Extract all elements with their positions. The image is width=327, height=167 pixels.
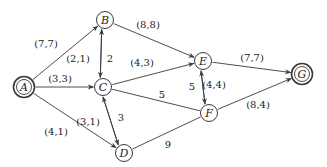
edge-label-e-f: (4,4) <box>202 79 226 90</box>
node-label-g: G <box>298 68 307 81</box>
node-label-f: F <box>204 107 213 120</box>
edge-e-g <box>212 62 290 72</box>
node-c: C <box>95 79 112 96</box>
nodes-layer: ABCDEFG <box>14 12 313 162</box>
edge-label-c-e: (4,3) <box>130 57 154 68</box>
edge-c-f <box>112 89 200 110</box>
edge-label-f-g: (8,4) <box>246 99 270 110</box>
edge-c-d <box>103 97 118 145</box>
edge-label-f-e: 5 <box>189 81 195 92</box>
node-e: E <box>195 53 212 70</box>
node-d: D <box>116 145 133 162</box>
edge-label-e-g: (7,7) <box>240 52 264 63</box>
edge-label-a-d: (4,1) <box>44 126 68 137</box>
edge-label-c-f: 5 <box>159 89 165 100</box>
edge-label-b-e: (8,8) <box>136 19 160 30</box>
edge-label-a-b: (7,7) <box>34 38 58 49</box>
edge-a-d <box>34 93 116 147</box>
node-g: G <box>292 64 313 85</box>
node-f: F <box>201 105 218 122</box>
node-label-d: D <box>119 147 129 160</box>
edge-b-c <box>100 29 101 77</box>
edge-label-a-c: (3,3) <box>48 73 72 84</box>
edge-label-c-b: (2,1) <box>66 53 90 64</box>
node-a: A <box>14 77 35 98</box>
node-b: B <box>97 12 114 29</box>
node-label-a: A <box>19 81 28 94</box>
node-label-c: C <box>99 81 108 94</box>
edges-layer: (7,7)(3,3)(4,1)(2,1)2(8,8)(4,3)5(3,1)395… <box>33 19 292 150</box>
node-label-b: B <box>100 14 109 27</box>
edge-label-d-f: 9 <box>165 139 171 150</box>
edge-label-d-c: (3,1) <box>76 116 100 127</box>
edge-label-c-d: 3 <box>118 112 124 123</box>
flow-network-diagram: (7,7)(3,3)(4,1)(2,1)2(8,8)(4,3)5(3,1)395… <box>0 0 327 167</box>
node-label-e: E <box>198 55 207 68</box>
edge-label-b-c: 2 <box>107 53 113 64</box>
